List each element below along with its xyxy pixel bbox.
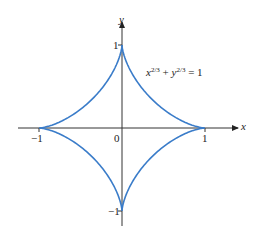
y-tick-label-neg1: −1 [108, 206, 120, 217]
astroid-figure: y x 1 −1 0 1 −1 x2/3 + y2/3 = 1 [0, 0, 257, 238]
x-tick-label-neg1: −1 [31, 133, 43, 144]
y-axis-label: y [119, 14, 124, 25]
plot-area [0, 0, 257, 238]
y-tick-label-1: 1 [113, 40, 119, 51]
origin-label: 0 [114, 133, 120, 144]
x-axis-label: x [241, 121, 246, 132]
eq-plus: + [160, 66, 172, 78]
equation-label: x2/3 + y2/3 = 1 [146, 66, 203, 78]
x-tick-label-1: 1 [202, 133, 208, 144]
eq-rhs: = 1 [185, 66, 202, 78]
eq-exp1: 2/3 [151, 66, 160, 74]
